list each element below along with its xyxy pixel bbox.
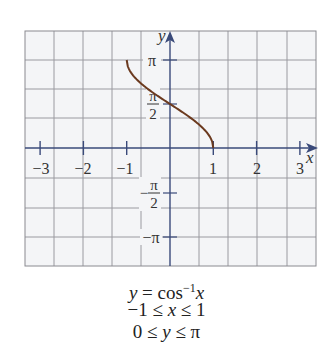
chart-plot-area: y x −3 −2 −1 1 2 3 π π 2 − π 2 −π (0, 0, 333, 275)
y-tick-label-neg-pi-over-2-den: 2 (150, 195, 158, 211)
x-tick-label-neg3: −3 (32, 160, 49, 177)
x-tick-label-2: 2 (253, 160, 261, 177)
caption-var-x: x (168, 299, 176, 320)
caption-range-pre: 0 ≤ (133, 321, 162, 342)
y-axis-label: y (156, 26, 166, 45)
y-tick-label-pi-over-2-den: 2 (149, 106, 157, 122)
caption-var-y: y (162, 321, 170, 342)
y-tick-label-neg-pi-over-2-num: π (150, 177, 158, 193)
y-tick-label-neg-sign: − (140, 185, 148, 201)
x-axis-label: x (305, 148, 314, 167)
caption-domain-pre: −1 ≤ (127, 299, 167, 320)
x-tick-label-3: 3 (296, 160, 304, 177)
y-tick-label-neg-pi: −π (142, 229, 159, 246)
caption-domain: −1 ≤ x ≤ 1 (0, 299, 333, 321)
x-tick-label-1: 1 (209, 160, 217, 177)
y-tick-label-pi: π (148, 52, 156, 69)
x-tick-label-neg1: −1 (116, 160, 133, 177)
caption-domain-post: ≤ 1 (176, 299, 205, 320)
caption-range: 0 ≤ y ≤ π (0, 321, 333, 343)
x-tick-label-neg2: −2 (74, 160, 91, 177)
caption-range-post: ≤ π (171, 321, 201, 342)
caption-superscript: −1 (183, 281, 196, 295)
